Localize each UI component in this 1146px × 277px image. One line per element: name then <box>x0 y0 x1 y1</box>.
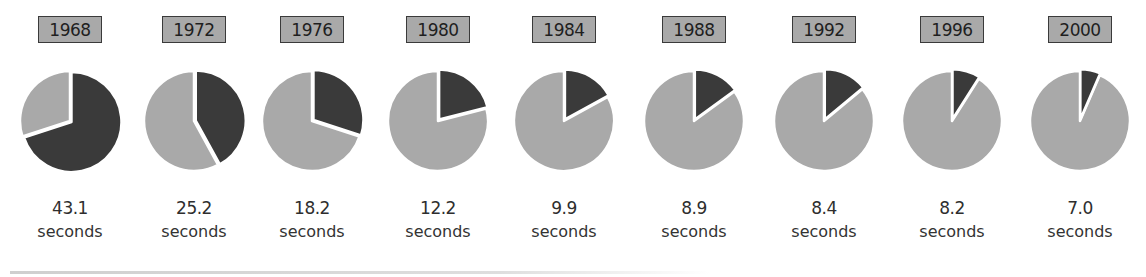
pie-chart <box>142 69 246 173</box>
year-column-1980: 198012.2seconds <box>368 0 508 277</box>
time-value: 18.2 <box>242 198 382 218</box>
pie-chart <box>18 69 122 173</box>
year-label: 1996 <box>920 16 984 43</box>
pie-chart <box>512 69 616 173</box>
time-value: 43.1 <box>0 198 140 218</box>
bottom-divider <box>10 271 710 274</box>
time-value: 8.9 <box>624 198 764 218</box>
year-column-1996: 19968.2seconds <box>882 0 1022 277</box>
time-unit: seconds <box>882 222 1022 241</box>
year-label: 1988 <box>662 16 726 43</box>
time-unit: seconds <box>754 222 894 241</box>
pie-chart <box>772 69 876 173</box>
year-column-1968: 196843.1seconds <box>0 0 140 277</box>
time-value: 8.2 <box>882 198 1022 218</box>
time-unit: seconds <box>494 222 634 241</box>
year-label: 1968 <box>38 16 102 43</box>
time-value: 9.9 <box>494 198 634 218</box>
year-label: 1976 <box>280 16 344 43</box>
time-unit: seconds <box>368 222 508 241</box>
pie-chart <box>900 69 1004 173</box>
pie-chart <box>642 69 746 173</box>
pie-chart <box>260 69 364 173</box>
year-column-1984: 19849.9seconds <box>494 0 634 277</box>
year-label: 1972 <box>162 16 226 43</box>
year-column-2000: 20007.0seconds <box>1010 0 1146 277</box>
pie-chart <box>1028 69 1132 173</box>
year-label: 2000 <box>1048 16 1112 43</box>
time-unit: seconds <box>242 222 382 241</box>
year-label: 1992 <box>792 16 856 43</box>
time-unit: seconds <box>0 222 140 241</box>
time-value: 12.2 <box>368 198 508 218</box>
time-unit: seconds <box>624 222 764 241</box>
year-label: 1984 <box>532 16 596 43</box>
year-column-1988: 19888.9seconds <box>624 0 764 277</box>
year-column-1976: 197618.2seconds <box>242 0 382 277</box>
time-unit: seconds <box>1010 222 1146 241</box>
year-column-1992: 19928.4seconds <box>754 0 894 277</box>
year-label: 1980 <box>406 16 470 43</box>
pie-chart <box>386 69 490 173</box>
time-value: 8.4 <box>754 198 894 218</box>
time-value: 7.0 <box>1010 198 1146 218</box>
